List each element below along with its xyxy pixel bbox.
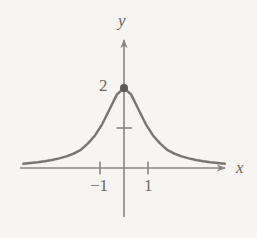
plot-canvas bbox=[0, 0, 257, 238]
x-tick-label-minus-1: −1 bbox=[90, 177, 108, 194]
graph-figure: y x 2 −1 1 bbox=[0, 0, 257, 238]
y-tick-label-2: 2 bbox=[99, 77, 108, 94]
y-axis-label: y bbox=[118, 12, 126, 29]
x-axis-label: x bbox=[236, 159, 244, 176]
maximum-point-dot bbox=[120, 84, 128, 92]
x-tick-label-plus-1: 1 bbox=[144, 177, 153, 194]
